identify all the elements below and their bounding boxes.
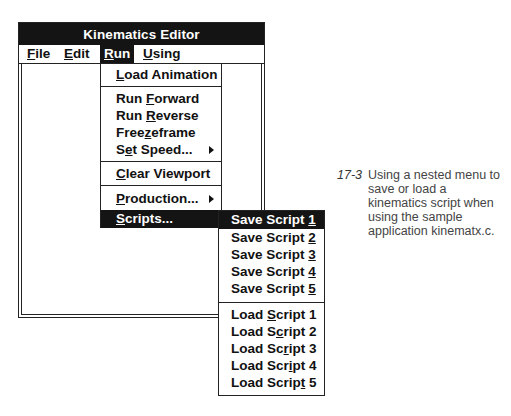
mnemonic: 5	[308, 281, 316, 296]
menu-label: un	[114, 46, 131, 61]
menu-item-run-forward[interactable]: Run Forward	[101, 90, 221, 107]
label-part: Free	[116, 125, 145, 140]
label-part: Save Script	[231, 247, 308, 262]
label-part: t Speed...	[133, 142, 193, 157]
label-part: eframe	[151, 125, 195, 140]
window-title: Kinematics Editor	[83, 27, 199, 42]
mnemonic: P	[116, 191, 125, 206]
mnemonic: S	[116, 211, 125, 226]
menu-run[interactable]: Run	[100, 45, 134, 63]
menu-bar: File Edit Run Using	[19, 45, 264, 64]
submenu-arrow-icon	[209, 146, 214, 154]
menu-item-load-script-4[interactable]: Load Script 4	[219, 357, 324, 374]
label-part: ipt 3	[289, 341, 317, 356]
label-part: Save Script	[231, 212, 308, 227]
menu-item-save-script-3[interactable]: Save Script 3	[219, 246, 324, 263]
label-part: pt 4	[293, 358, 317, 373]
label-part: Save Script	[231, 230, 308, 245]
menu-item-freezeframe[interactable]: Freezeframe	[101, 124, 221, 141]
menu-item-save-script-5[interactable]: Save Script 5	[219, 280, 324, 297]
menu-label: sing	[153, 46, 181, 61]
scripts-submenu: Save Script 1 Save Script 2 Save Script …	[218, 210, 325, 396]
mnemonic: L	[116, 67, 124, 82]
menu-using[interactable]: Using	[139, 45, 185, 63]
label-part: Load Scrip	[231, 375, 301, 390]
label-part: ript 2	[284, 324, 317, 339]
menu-item-load-script-1[interactable]: Load Script 1	[219, 306, 324, 323]
menu-item-scripts[interactable]: Scripts...	[101, 210, 221, 228]
mnemonic: F	[27, 46, 35, 61]
label-part: roduction...	[125, 191, 199, 206]
mnemonic: U	[143, 46, 153, 61]
menu-edit[interactable]: Edit	[60, 45, 94, 63]
label-part: Save Script	[231, 281, 308, 296]
label-part: lear Viewport	[126, 166, 211, 181]
menu-item-run-reverse[interactable]: Run Reverse	[101, 107, 221, 124]
mnemonic: c	[276, 324, 284, 339]
menu-item-save-script-1[interactable]: Save Script 1	[219, 211, 324, 229]
menu-separator	[101, 185, 221, 186]
submenu-arrow-icon	[209, 195, 214, 203]
menu-item-load-script-3[interactable]: Load Script 3	[219, 340, 324, 357]
label-part: Run	[116, 108, 146, 123]
label-part: S	[116, 142, 125, 157]
mnemonic: 3	[308, 247, 316, 262]
label-part: Load S	[231, 324, 276, 339]
menu-label: dit	[73, 46, 90, 61]
run-menu-dropdown: Load Animation Run Forward Run Reverse F…	[100, 63, 222, 228]
label-part: 5	[305, 375, 316, 390]
label-part: cript 1	[276, 307, 317, 322]
caption-text: Using a nested menu to save or load a ki…	[368, 168, 508, 238]
mnemonic: F	[146, 91, 154, 106]
label-part: Run	[116, 91, 146, 106]
label-part: everse	[156, 108, 199, 123]
menu-item-save-script-4[interactable]: Save Script 4	[219, 263, 324, 280]
mnemonic: E	[64, 46, 73, 61]
label-part: Load Scr	[231, 358, 289, 373]
menu-item-production[interactable]: Production...	[101, 190, 221, 207]
mnemonic: 4	[308, 264, 316, 279]
menu-item-load-script-5[interactable]: Load Script 5	[219, 374, 324, 391]
mnemonic: R	[146, 108, 156, 123]
label-part: cripts...	[125, 211, 173, 226]
menu-item-clear-viewport[interactable]: Clear Viewport	[101, 165, 221, 182]
menu-label: ile	[35, 46, 50, 61]
label-part: Load Sc	[231, 341, 284, 356]
label-part: Save Script	[231, 264, 308, 279]
menu-item-load-animation[interactable]: Load Animation	[101, 66, 221, 83]
menu-item-set-speed[interactable]: Set Speed...	[101, 141, 221, 158]
menu-separator	[101, 86, 221, 87]
mnemonic: R	[104, 46, 114, 61]
label-part: oad Animation	[124, 67, 217, 82]
menu-file[interactable]: File	[23, 45, 54, 63]
mnemonic: 2	[308, 230, 316, 245]
mnemonic: S	[267, 307, 276, 322]
menu-separator	[219, 302, 324, 303]
title-bar[interactable]: Kinematics Editor	[19, 23, 264, 45]
label-part: orward	[154, 91, 199, 106]
menu-item-load-script-2[interactable]: Load Script 2	[219, 323, 324, 340]
mnemonic: C	[116, 166, 126, 181]
mnemonic: e	[125, 142, 133, 157]
mnemonic: 1	[308, 212, 316, 227]
figure-number: 17-3	[337, 168, 362, 182]
menu-separator	[101, 161, 221, 162]
label-part: Load	[231, 307, 267, 322]
menu-item-save-script-2[interactable]: Save Script 2	[219, 229, 324, 246]
